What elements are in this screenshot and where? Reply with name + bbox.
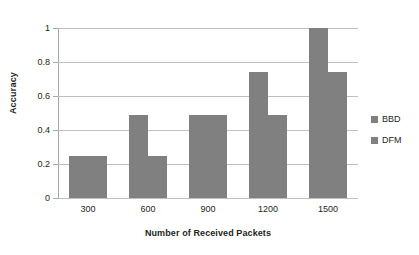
y-tick-mark: [53, 164, 58, 165]
legend-label: BBD: [382, 114, 401, 124]
bar-bbd: [249, 72, 268, 198]
bar-dfm: [208, 115, 227, 198]
x-tick-label: 900: [200, 204, 215, 214]
x-tick-label: 300: [80, 204, 95, 214]
bar-group: [249, 28, 286, 198]
y-tick-label: 1: [45, 23, 50, 33]
bar-dfm: [88, 156, 107, 199]
x-axis-title: Number of Received Packets: [58, 228, 358, 238]
bar-chart-figure: Accuracy 00.20.40.60.81 3006009001200150…: [0, 0, 419, 255]
bar-group: [129, 28, 166, 198]
chart-legend: BBDDFM: [371, 114, 402, 156]
x-tick-label: 600: [140, 204, 155, 214]
y-tick-label: 0.8: [37, 57, 50, 67]
y-tick-label: 0.6: [37, 91, 50, 101]
y-tick-mark: [53, 130, 58, 131]
bar-bbd: [309, 28, 328, 198]
bar-group: [309, 28, 346, 198]
bar-group: [189, 28, 226, 198]
bar-dfm: [328, 72, 347, 198]
y-tick-mark: [53, 28, 58, 29]
y-tick-mark: [53, 96, 58, 97]
y-tick-label: 0.4: [37, 125, 50, 135]
y-tick-mark: [53, 62, 58, 63]
legend-swatch-icon: [371, 116, 378, 123]
bar-bbd: [129, 115, 148, 198]
legend-entry: BBD: [371, 114, 402, 124]
y-axis-title: Accuracy: [8, 58, 18, 128]
legend-swatch-icon: [371, 137, 378, 144]
bar-bbd: [189, 115, 208, 198]
y-tick-mark: [53, 198, 58, 199]
gridline: [58, 198, 358, 199]
y-tick-label: 0: [45, 193, 50, 203]
x-tick-label: 1500: [318, 204, 338, 214]
y-axis-line: [58, 28, 59, 199]
bar-bbd: [69, 156, 88, 199]
legend-entry: DFM: [371, 135, 402, 145]
x-tick-label: 1200: [258, 204, 278, 214]
bar-group: [69, 28, 106, 198]
legend-label: DFM: [382, 135, 402, 145]
bar-dfm: [148, 156, 167, 199]
plot-area: 00.20.40.60.81 30060090012001500: [58, 28, 358, 198]
bar-dfm: [268, 115, 287, 198]
y-tick-label: 0.2: [37, 159, 50, 169]
